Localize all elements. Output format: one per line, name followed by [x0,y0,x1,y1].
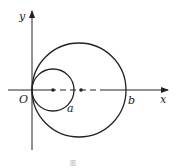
figure-caption: 图 [70,159,76,167]
origin-label: O [19,93,28,106]
large-circle-center [79,88,83,92]
x-axis-label: x [160,93,167,106]
point-b-label: b [128,94,135,107]
y-axis-label: y [18,10,26,23]
small-circle-center [51,88,55,92]
point-a-label: a [67,102,74,115]
figure-canvas: y x O a b 图 [0,0,180,168]
